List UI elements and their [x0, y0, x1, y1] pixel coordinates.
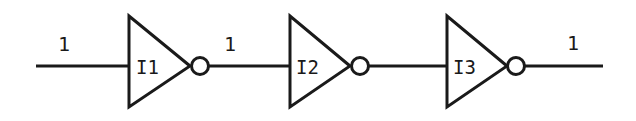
inverter-i2-label: I2	[296, 56, 319, 78]
inverter-i1: I1	[129, 16, 209, 107]
i1-output-signal-label: 1	[224, 32, 236, 56]
inverter-i3-bubble-icon	[508, 58, 525, 75]
inverter-chain-diagram: 1 I1 1 I2 I3 1	[0, 0, 636, 121]
output-signal-label: 1	[567, 31, 579, 55]
inverter-i2: I2	[290, 16, 369, 107]
inverter-i3: I3	[447, 16, 525, 107]
input-signal-label: 1	[58, 32, 70, 56]
inverter-i1-bubble-icon	[192, 58, 209, 75]
inverter-i3-label: I3	[453, 56, 476, 78]
inverter-i1-label: I1	[136, 56, 159, 78]
inverter-i2-bubble-icon	[352, 58, 369, 75]
